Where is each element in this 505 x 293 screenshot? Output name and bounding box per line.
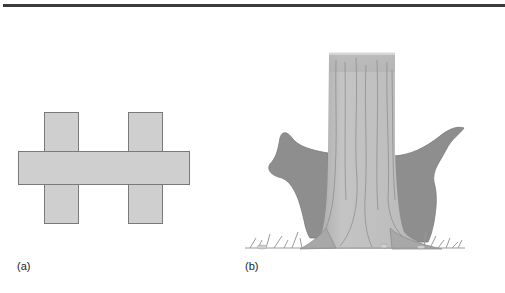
- left-buttress: [269, 133, 330, 238]
- panel-a: (a): [0, 0, 230, 293]
- right-buttress: [394, 127, 464, 242]
- tree-illustration: [230, 0, 505, 293]
- horizontal-bar: [18, 151, 190, 185]
- panel-a-label: (a): [17, 260, 30, 272]
- panel-b-label: (b): [245, 260, 258, 272]
- panel-b: (b): [230, 0, 505, 293]
